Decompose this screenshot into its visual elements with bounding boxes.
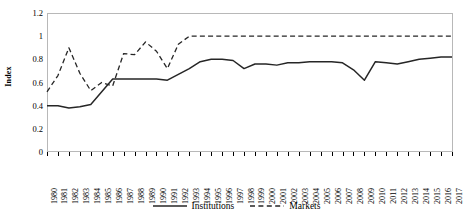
chart-container: Index 00.20.40.60.811.2 1980198119821983… [0, 0, 473, 220]
y-tick-label: 0.6 [32, 78, 43, 87]
legend-swatch-solid-icon [153, 202, 187, 210]
legend-item-institutions: Institutions [153, 201, 235, 211]
y-axis-tick-labels: 00.20.40.60.811.2 [16, 0, 46, 160]
legend-swatch-dashed-icon [250, 202, 284, 210]
y-axis-title: Index [0, 0, 16, 152]
y-axis-title-label: Index [4, 66, 13, 87]
y-tick-label: 0.8 [32, 55, 43, 64]
y-tick-label: 0.4 [32, 101, 43, 110]
chart-legend: Institutions Markets [0, 196, 473, 216]
legend-item-markets: Markets [250, 201, 320, 211]
y-tick-label: 0 [39, 148, 43, 157]
x-axis-tick-labels: 1980198119821983198419851986198719881989… [47, 156, 453, 190]
series-line-institutions [47, 57, 452, 108]
y-tick-label: 1 [39, 32, 43, 41]
legend-label-institutions: Institutions [192, 201, 235, 211]
y-tick-label: 1.2 [32, 9, 43, 18]
legend-label-markets: Markets [289, 201, 320, 211]
plot-lines [47, 13, 453, 152]
y-tick-label: 0.2 [32, 125, 43, 134]
